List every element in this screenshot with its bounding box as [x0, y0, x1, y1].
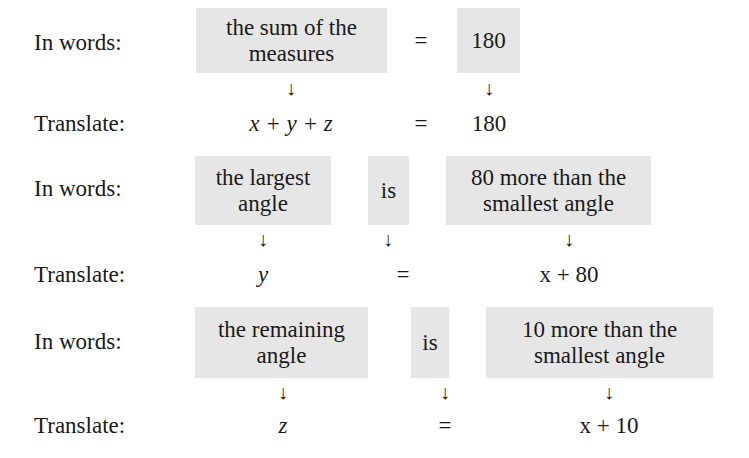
- phrase-text: the remaining: [218, 317, 345, 343]
- phrase-text: the sum of the: [226, 15, 357, 41]
- in-words-label-2: In words:: [34, 176, 122, 202]
- phrase-box-remaining: the remainingangle: [195, 307, 368, 378]
- expression-right: x + 10: [580, 413, 639, 439]
- expression-left: z: [279, 413, 288, 439]
- down-arrow-icon: ↓: [286, 78, 296, 98]
- phrase-text: 180: [471, 28, 506, 54]
- down-arrow-icon: ↓: [484, 78, 494, 98]
- phrase-text: smallest angle: [522, 343, 677, 369]
- phrase-box-is: is: [368, 156, 409, 225]
- down-arrow-icon: ↓: [440, 382, 450, 402]
- translate-label-1: Translate:: [34, 111, 125, 137]
- phrase-text: angle: [218, 343, 345, 369]
- down-arrow-icon: ↓: [564, 229, 574, 249]
- equals-sign: =: [439, 413, 452, 439]
- expression-left: y: [258, 262, 268, 288]
- phrase-text: smallest angle: [471, 191, 626, 217]
- phrase-text: measures: [226, 41, 357, 67]
- phrase-box-180: 180: [457, 8, 520, 73]
- down-arrow-icon: ↓: [258, 229, 268, 249]
- in-words-label-1: In words:: [34, 30, 122, 56]
- phrase-box-is: is: [411, 307, 449, 378]
- phrase-text: is: [422, 330, 437, 356]
- phrase-text: 10 more than the: [522, 317, 677, 343]
- down-arrow-icon: ↓: [383, 229, 393, 249]
- phrase-text: is: [381, 178, 396, 204]
- phrase-text: the largest: [216, 165, 311, 191]
- phrase-box-80-more: 80 more than thesmallest angle: [446, 156, 651, 225]
- equals-sign: =: [415, 111, 428, 137]
- phrase-text: angle: [216, 191, 311, 217]
- equals-sign: =: [415, 28, 428, 54]
- phrase-box-sum: the sum of themeasures: [196, 8, 387, 73]
- translate-label-2: Translate:: [34, 262, 125, 288]
- equals-sign: =: [397, 262, 410, 288]
- expression-right: x + 80: [540, 262, 599, 288]
- down-arrow-icon: ↓: [278, 382, 288, 402]
- translate-label-3: Translate:: [34, 413, 125, 439]
- phrase-box-10-more: 10 more than thesmallest angle: [486, 307, 713, 378]
- down-arrow-icon: ↓: [604, 382, 614, 402]
- phrase-box-largest: the largestangle: [195, 156, 331, 225]
- phrase-text: 80 more than the: [471, 165, 626, 191]
- expression-left: x + y + z: [249, 111, 332, 137]
- in-words-label-3: In words:: [34, 329, 122, 355]
- expression-right: 180: [472, 111, 507, 137]
